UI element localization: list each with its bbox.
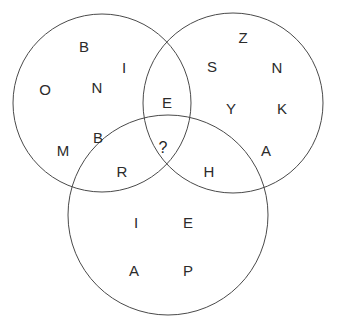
venn-letter: K [277,100,287,117]
venn-letter: B [93,129,103,146]
venn-letter: R [117,163,128,180]
venn-letter: S [207,58,217,75]
venn-letter: O [39,81,51,98]
venn-letter: I [122,59,126,76]
venn-letter: E [162,94,172,111]
venn-letter: H [204,163,215,180]
venn-letter: P [183,262,193,279]
venn-letter: N [92,79,103,96]
venn-diagram: BIONBMZSNYKAIEAPERH? [0,0,341,329]
venn-letter: Y [226,100,236,117]
venn-letter: A [261,142,271,159]
venn-letter: I [134,214,138,231]
venn-letter: Z [238,29,247,46]
venn-letter: M [57,142,70,159]
venn-letter: B [79,38,89,55]
venn-letters-group: BIONBMZSNYKAIEAPERH? [39,29,287,279]
missing-letter-placeholder[interactable]: ? [159,139,168,156]
venn-letter: N [272,59,283,76]
venn-letter: A [129,262,139,279]
venn-diagram-canvas: BIONBMZSNYKAIEAPERH? [0,0,341,329]
venn-letter: E [183,214,193,231]
